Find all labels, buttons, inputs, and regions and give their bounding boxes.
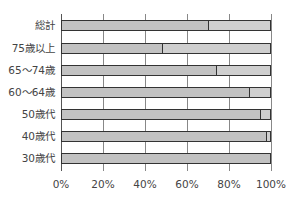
category-label: 30歳代 <box>22 152 55 164</box>
stacked-bar-chart: 総計 75歳以上 65〜74歳 60〜64歳 50歳代 40歳代 30歳代 0%… <box>0 0 295 202</box>
bar-row <box>61 43 271 54</box>
bar-segment-gray <box>266 132 270 141</box>
category-label: 40歳代 <box>22 130 55 142</box>
bar-row <box>61 20 271 31</box>
x-tick-label: 80% <box>217 178 240 190</box>
x-tick-label: 100% <box>256 178 286 190</box>
bar-segment-gray <box>216 66 270 75</box>
bar-segment-gray <box>208 21 270 30</box>
category-label: 60〜64歳 <box>8 86 55 98</box>
category-label: 75歳以上 <box>12 42 55 54</box>
bar-segment-dotted <box>62 88 249 97</box>
gridline-100 <box>271 14 272 171</box>
bar-segment-dotted <box>62 44 162 53</box>
category-label: 50歳代 <box>22 108 55 120</box>
bar-row <box>61 153 271 164</box>
bar-segment-dotted <box>62 66 216 75</box>
category-label: 65〜74歳 <box>8 64 55 76</box>
bar-segment-dotted <box>62 154 270 163</box>
x-tick-label: 60% <box>175 178 198 190</box>
bar-segment-dotted <box>62 21 208 30</box>
bar-segment-gray <box>249 88 270 97</box>
bar-segment-dotted <box>62 132 266 141</box>
bar-row <box>61 131 271 142</box>
bar-segment-dotted <box>62 110 260 119</box>
bar-segment-gray <box>260 110 270 119</box>
bar-row <box>61 109 271 120</box>
bar-segment-gray <box>162 44 270 53</box>
x-tick-label: 0% <box>53 178 70 190</box>
category-label: 総計 <box>35 19 55 31</box>
bar-row <box>61 87 271 98</box>
bar-row <box>61 65 271 76</box>
x-tick-label: 20% <box>91 178 114 190</box>
x-tick-label: 40% <box>133 178 156 190</box>
